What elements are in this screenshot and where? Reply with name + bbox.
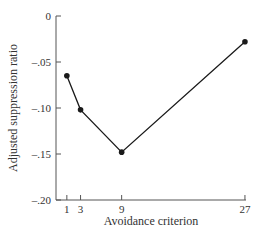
series-line	[67, 42, 245, 152]
data-point	[64, 73, 70, 79]
line-chart: 0–.05–.10–.15–.20 13927 Avoidance criter…	[0, 0, 261, 240]
data-point	[119, 149, 125, 155]
y-tick-label: –.15	[31, 148, 52, 160]
x-axis-label: Avoidance criterion	[104, 214, 199, 228]
x-tick-label: 27	[239, 203, 251, 215]
y-axis-label: Adjusted suppression ratio	[6, 44, 20, 172]
x-tick-label: 3	[78, 203, 84, 215]
x-ticks: 13927	[64, 195, 251, 215]
data-markers	[64, 39, 248, 155]
y-tick-label: 0	[46, 10, 52, 22]
y-tick-label: –.10	[31, 102, 52, 114]
y-tick-label: –.20	[31, 194, 52, 206]
x-tick-label: 1	[64, 203, 70, 215]
data-point	[242, 39, 248, 45]
data-point	[78, 107, 84, 113]
y-tick-label: –.05	[31, 56, 52, 68]
